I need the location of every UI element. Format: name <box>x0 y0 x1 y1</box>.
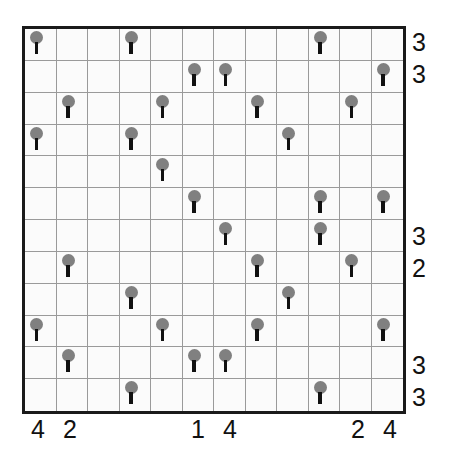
grid-cell-r8-c10[interactable] <box>309 252 341 284</box>
grid-cell-r3-c8[interactable] <box>246 93 278 125</box>
grid-cell-r12-c12[interactable] <box>372 379 404 411</box>
grid-cell-r3-c7[interactable] <box>214 93 246 125</box>
grid-cell-r3-c3[interactable] <box>88 93 120 125</box>
grid-cell-r12-c7[interactable] <box>214 379 246 411</box>
grid-cell-r1-c10[interactable] <box>309 29 341 61</box>
grid-cell-r7-c4[interactable] <box>120 220 152 252</box>
grid-cell-r8-c2[interactable] <box>57 252 89 284</box>
grid-cell-r7-c2[interactable] <box>57 220 89 252</box>
grid-cell-r11-c11[interactable] <box>340 347 372 379</box>
grid-cell-r3-c4[interactable] <box>120 93 152 125</box>
grid-cell-r1-c11[interactable] <box>340 29 372 61</box>
grid-cell-r9-c11[interactable] <box>340 284 372 316</box>
grid-cell-r4-c7[interactable] <box>214 125 246 157</box>
grid-cell-r11-c1[interactable] <box>25 347 57 379</box>
grid-cell-r11-c3[interactable] <box>88 347 120 379</box>
grid-cell-r5-c12[interactable] <box>372 156 404 188</box>
grid-cell-r1-c7[interactable] <box>214 29 246 61</box>
grid-cell-r2-c6[interactable] <box>183 61 215 93</box>
grid-cell-r11-c9[interactable] <box>277 347 309 379</box>
grid-cell-r7-c8[interactable] <box>246 220 278 252</box>
grid-cell-r8-c4[interactable] <box>120 252 152 284</box>
grid-cell-r3-c10[interactable] <box>309 93 341 125</box>
grid-cell-r8-c11[interactable] <box>340 252 372 284</box>
grid-cell-r4-c9[interactable] <box>277 125 309 157</box>
grid-cell-r8-c12[interactable] <box>372 252 404 284</box>
grid-cell-r2-c12[interactable] <box>372 61 404 93</box>
grid-cell-r3-c9[interactable] <box>277 93 309 125</box>
grid-cell-r12-c1[interactable] <box>25 379 57 411</box>
grid-cell-r11-c10[interactable] <box>309 347 341 379</box>
grid-cell-r2-c10[interactable] <box>309 61 341 93</box>
grid-cell-r5-c1[interactable] <box>25 156 57 188</box>
grid-cell-r4-c6[interactable] <box>183 125 215 157</box>
grid-cell-r7-c6[interactable] <box>183 220 215 252</box>
grid-cell-r3-c5[interactable] <box>151 93 183 125</box>
grid-cell-r3-c1[interactable] <box>25 93 57 125</box>
grid-cell-r1-c12[interactable] <box>372 29 404 61</box>
grid-cell-r7-c7[interactable] <box>214 220 246 252</box>
grid-cell-r12-c6[interactable] <box>183 379 215 411</box>
grid-cell-r5-c9[interactable] <box>277 156 309 188</box>
grid-cell-r1-c5[interactable] <box>151 29 183 61</box>
grid-cell-r8-c9[interactable] <box>277 252 309 284</box>
grid-cell-r9-c4[interactable] <box>120 284 152 316</box>
grid-cell-r10-c2[interactable] <box>57 316 89 348</box>
grid-cell-r4-c12[interactable] <box>372 125 404 157</box>
grid-cell-r6-c6[interactable] <box>183 188 215 220</box>
grid-cell-r7-c5[interactable] <box>151 220 183 252</box>
grid-cell-r10-c3[interactable] <box>88 316 120 348</box>
grid-cell-r11-c8[interactable] <box>246 347 278 379</box>
grid-cell-r9-c10[interactable] <box>309 284 341 316</box>
grid-cell-r9-c5[interactable] <box>151 284 183 316</box>
grid-cell-r8-c5[interactable] <box>151 252 183 284</box>
grid-cell-r5-c6[interactable] <box>183 156 215 188</box>
grid-cell-r7-c3[interactable] <box>88 220 120 252</box>
grid-cell-r1-c3[interactable] <box>88 29 120 61</box>
grid-cell-r5-c5[interactable] <box>151 156 183 188</box>
grid-cell-r11-c2[interactable] <box>57 347 89 379</box>
grid-cell-r12-c2[interactable] <box>57 379 89 411</box>
grid-cell-r3-c12[interactable] <box>372 93 404 125</box>
grid-cell-r10-c10[interactable] <box>309 316 341 348</box>
grid-cell-r2-c4[interactable] <box>120 61 152 93</box>
grid-cell-r2-c1[interactable] <box>25 61 57 93</box>
grid-cell-r1-c9[interactable] <box>277 29 309 61</box>
grid-cell-r4-c4[interactable] <box>120 125 152 157</box>
grid-cell-r5-c4[interactable] <box>120 156 152 188</box>
grid-cell-r11-c7[interactable] <box>214 347 246 379</box>
grid-cell-r4-c1[interactable] <box>25 125 57 157</box>
grid-cell-r9-c2[interactable] <box>57 284 89 316</box>
grid-cell-r8-c8[interactable] <box>246 252 278 284</box>
grid-cell-r2-c9[interactable] <box>277 61 309 93</box>
grid-cell-r9-c7[interactable] <box>214 284 246 316</box>
grid-cell-r7-c9[interactable] <box>277 220 309 252</box>
grid-cell-r10-c5[interactable] <box>151 316 183 348</box>
grid-cell-r6-c9[interactable] <box>277 188 309 220</box>
grid-cell-r2-c11[interactable] <box>340 61 372 93</box>
grid-cell-r3-c6[interactable] <box>183 93 215 125</box>
grid-cell-r4-c5[interactable] <box>151 125 183 157</box>
grid-cell-r6-c4[interactable] <box>120 188 152 220</box>
grid-cell-r5-c2[interactable] <box>57 156 89 188</box>
grid-cell-r5-c10[interactable] <box>309 156 341 188</box>
grid-cell-r6-c5[interactable] <box>151 188 183 220</box>
grid-cell-r7-c10[interactable] <box>309 220 341 252</box>
grid-cell-r12-c5[interactable] <box>151 379 183 411</box>
grid-cell-r11-c4[interactable] <box>120 347 152 379</box>
grid-cell-r11-c12[interactable] <box>372 347 404 379</box>
grid-cell-r10-c11[interactable] <box>340 316 372 348</box>
grid-cell-r5-c11[interactable] <box>340 156 372 188</box>
grid-cell-r4-c8[interactable] <box>246 125 278 157</box>
grid-cell-r6-c11[interactable] <box>340 188 372 220</box>
grid-cell-r4-c10[interactable] <box>309 125 341 157</box>
grid-cell-r6-c10[interactable] <box>309 188 341 220</box>
grid-cell-r12-c9[interactable] <box>277 379 309 411</box>
grid-cell-r6-c2[interactable] <box>57 188 89 220</box>
grid-cell-r6-c7[interactable] <box>214 188 246 220</box>
grid-cell-r1-c6[interactable] <box>183 29 215 61</box>
grid-cell-r12-c3[interactable] <box>88 379 120 411</box>
grid-cell-r10-c1[interactable] <box>25 316 57 348</box>
grid-cell-r3-c2[interactable] <box>57 93 89 125</box>
grid-cell-r8-c6[interactable] <box>183 252 215 284</box>
